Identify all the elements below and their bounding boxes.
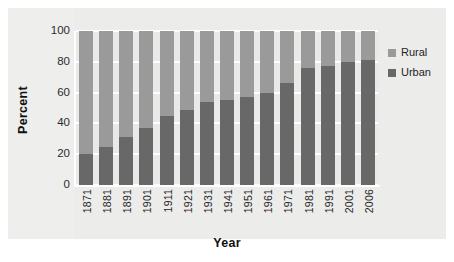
bar-group[interactable] — [79, 31, 93, 185]
chart-legend: RuralUrban — [388, 45, 452, 85]
bar-segment-rural[interactable] — [240, 31, 254, 97]
bar-segment-urban[interactable] — [341, 62, 355, 185]
bar-group[interactable] — [301, 31, 315, 185]
x-axis-tick-label: 1931 — [202, 189, 214, 213]
bar-segment-urban[interactable] — [139, 128, 153, 185]
x-axis-tick-label: 1971 — [282, 189, 294, 213]
bar-segment-rural[interactable] — [160, 31, 174, 116]
bar-segment-rural[interactable] — [119, 31, 133, 137]
bar-segment-rural[interactable] — [260, 31, 274, 93]
x-axis-tick-label: 1871 — [81, 189, 93, 213]
bar-group[interactable] — [240, 31, 254, 185]
legend-swatch-icon — [388, 49, 396, 57]
bar-segment-rural[interactable] — [321, 31, 335, 66]
bar-group[interactable] — [260, 31, 274, 185]
x-axis-tick-label: 1941 — [222, 189, 234, 213]
bar-segment-urban[interactable] — [240, 97, 254, 185]
y-axis-title: Percent — [16, 86, 30, 134]
x-axis-tick-label: 1891 — [121, 189, 133, 213]
bar-group[interactable] — [139, 31, 153, 185]
legend-label: Urban — [401, 67, 431, 78]
bar-segment-rural[interactable] — [99, 31, 113, 147]
bar-segment-urban[interactable] — [220, 100, 234, 185]
x-axis-tick-label: 1881 — [101, 189, 113, 213]
bar-group[interactable] — [200, 31, 214, 185]
bar-segment-rural[interactable] — [139, 31, 153, 128]
bar-segment-urban[interactable] — [200, 102, 214, 185]
bar-group[interactable] — [160, 31, 174, 185]
bar-group[interactable] — [119, 31, 133, 185]
x-axis-line — [74, 185, 380, 187]
legend-item-rural[interactable]: Rural — [388, 45, 452, 60]
y-axis-line — [74, 31, 76, 187]
bar-group[interactable] — [220, 31, 234, 185]
bar-segment-rural[interactable] — [220, 31, 234, 100]
bar-group[interactable] — [99, 31, 113, 185]
x-axis-tick-label: 1961 — [262, 189, 274, 213]
bar-group[interactable] — [280, 31, 294, 185]
x-axis-tick-label: 1921 — [182, 189, 194, 213]
y-axis-tick-label: 100 — [36, 25, 70, 36]
bar-segment-urban[interactable] — [260, 93, 274, 185]
plot-area — [76, 31, 378, 185]
bar-segment-rural[interactable] — [280, 31, 294, 83]
bar-segment-urban[interactable] — [301, 68, 315, 185]
chart-figure: Percent 020406080100 1871188118911901191… — [0, 0, 454, 262]
bar-segment-urban[interactable] — [160, 116, 174, 185]
x-axis-title: Year — [0, 236, 454, 250]
bar-segment-urban[interactable] — [99, 147, 113, 186]
legend-label: Rural — [401, 47, 427, 58]
y-axis-tick-label: 80 — [36, 56, 70, 67]
bar-segment-urban[interactable] — [79, 154, 93, 185]
legend-item-urban[interactable]: Urban — [388, 65, 452, 80]
bar-group[interactable] — [341, 31, 355, 185]
x-axis-tick-label: 1981 — [303, 189, 315, 213]
bar-segment-rural[interactable] — [361, 31, 375, 60]
legend-swatch-icon — [388, 69, 396, 77]
x-axis-tick-label: 1991 — [323, 189, 335, 213]
bar-segment-rural[interactable] — [341, 31, 355, 62]
y-axis-tick-label: 40 — [36, 117, 70, 128]
x-axis-tick-label: 1911 — [162, 189, 174, 212]
bar-segment-urban[interactable] — [180, 110, 194, 185]
bar-segment-rural[interactable] — [301, 31, 315, 68]
bar-segment-urban[interactable] — [119, 137, 133, 185]
bar-segment-rural[interactable] — [79, 31, 93, 154]
bar-segment-rural[interactable] — [180, 31, 194, 110]
y-axis-tick-label: 60 — [36, 87, 70, 98]
x-axis-tick-labels: 1871188118911901191119211931194119511961… — [0, 189, 454, 229]
bar-segment-urban[interactable] — [280, 83, 294, 185]
bar-segment-rural[interactable] — [200, 31, 214, 102]
bar-segment-urban[interactable] — [321, 66, 335, 185]
y-axis-tick-label: 20 — [36, 148, 70, 159]
x-axis-tick-label: 2001 — [343, 189, 355, 213]
bar-group[interactable] — [321, 31, 335, 185]
x-axis-tick-label: 1901 — [141, 189, 153, 213]
x-axis-tick-label: 1951 — [242, 189, 254, 213]
bar-segment-urban[interactable] — [361, 60, 375, 185]
bar-group[interactable] — [361, 31, 375, 185]
x-axis-tick-label: 2006 — [363, 189, 375, 213]
bar-group[interactable] — [180, 31, 194, 185]
